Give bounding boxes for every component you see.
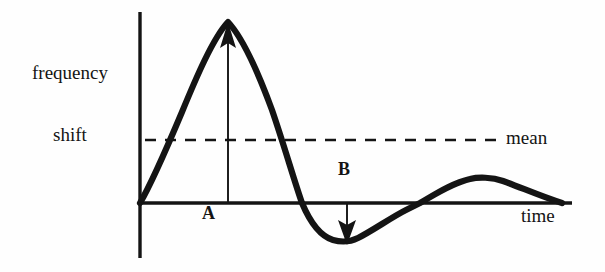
marker-b-label: B [338,160,350,179]
mean-line-label: mean [506,128,547,149]
y-axis-label-line1: frequency [14,63,126,84]
annotation-arrow-a [220,22,236,203]
y-axis-label: frequency shift [14,22,126,186]
figure-canvas: frequency shift mean time A B [0,0,605,272]
x-axis-label: time [521,206,555,227]
y-axis-label-line2: shift [14,125,126,146]
marker-a-label: A [202,204,215,223]
